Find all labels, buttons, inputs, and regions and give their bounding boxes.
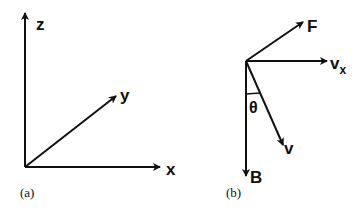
y-axis-arrow xyxy=(25,96,116,167)
panel-a-caption: (a) xyxy=(20,185,34,200)
velocity-x-subscript: x xyxy=(339,63,346,77)
diagram-canvas: z y x (a) F vx v B θ (b) xyxy=(0,0,363,210)
velocity-x-label: vx xyxy=(330,54,346,77)
field-label-B: B xyxy=(250,168,262,187)
theta-angle-label: θ xyxy=(249,99,258,116)
z-axis-label: z xyxy=(36,15,45,34)
theta-angle-arc xyxy=(246,93,260,94)
y-axis-label: y xyxy=(120,86,130,105)
panel-b-vector-diagram: F vx v B θ (b) xyxy=(226,17,346,200)
panel-b-caption: (b) xyxy=(226,185,241,200)
velocity-label-v: v xyxy=(284,139,294,158)
panel-a-coordinate-axes: z y x (a) xyxy=(20,13,176,200)
force-label-F: F xyxy=(307,17,317,36)
force-vector-F xyxy=(246,22,303,61)
x-axis-label: x xyxy=(166,160,176,179)
